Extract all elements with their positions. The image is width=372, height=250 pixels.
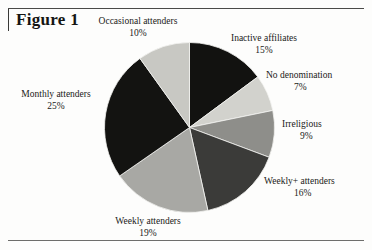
pie-label-value: 16%	[264, 188, 368, 200]
pie-label-name: Inactive affiliates	[216, 33, 312, 45]
pie-label-irreligious: Irreligious 9%	[282, 119, 360, 142]
figure-caption-box: Figure 1	[8, 9, 79, 31]
figure-page: Figure 1 Occasional attenders 10% Inacti…	[0, 0, 372, 250]
pie-slice-group	[104, 43, 274, 213]
pie-label-value: 15%	[216, 45, 312, 57]
pie-label-weekly-plus-attenders: Weekly+ attenders 16%	[264, 176, 368, 199]
pie-label-name: Occasional attenders	[86, 16, 190, 28]
pie-label-name: Weekly attenders	[96, 216, 200, 228]
pie-label-name: No denomination	[266, 70, 370, 82]
pie-label-value: 25%	[6, 101, 106, 113]
pie-label-name: Monthly attenders	[6, 89, 106, 101]
figure-bottom-rule	[8, 240, 364, 241]
pie-label-value: 19%	[96, 228, 200, 240]
pie-chart-svg	[104, 42, 275, 213]
pie-label-value: 7%	[266, 82, 370, 94]
pie-label-value: 9%	[282, 131, 360, 143]
pie-chart	[104, 42, 275, 213]
pie-label-occasional-attenders: Occasional attenders 10%	[86, 16, 190, 39]
pie-label-name: Irreligious	[282, 119, 360, 131]
pie-label-value: 10%	[86, 28, 190, 40]
pie-label-weekly-attenders: Weekly attenders 19%	[96, 216, 200, 239]
pie-label-no-denomination: No denomination 7%	[266, 70, 370, 93]
pie-label-name: Weekly+ attenders	[264, 176, 368, 188]
pie-label-monthly-attenders: Monthly attenders 25%	[6, 89, 106, 112]
figure-label: Figure 1	[16, 10, 79, 30]
pie-label-inactive-affiliates: Inactive affiliates 15%	[216, 33, 312, 56]
